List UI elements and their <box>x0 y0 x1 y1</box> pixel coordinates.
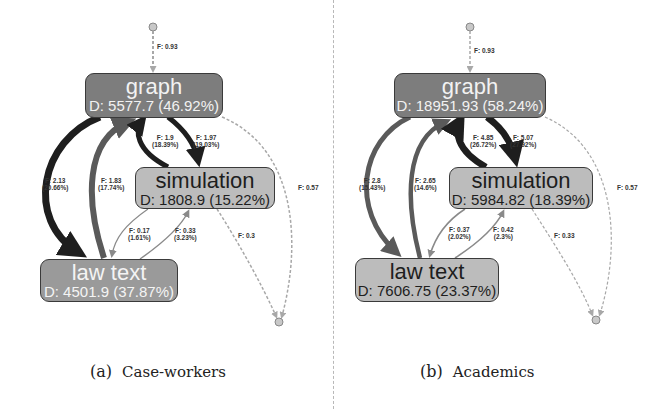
node-simulation: simulation D: 1808.9 (15.22%) <box>135 167 275 209</box>
edge-percentage: (2.02%) <box>448 233 471 240</box>
edge-label-graph-to-sim: F: 5.07(27.92%) <box>510 134 536 148</box>
edge-percentage: (2.3%) <box>494 233 513 240</box>
end-node-icon <box>592 316 600 324</box>
edge-frequency: F: 1.97 <box>196 134 217 141</box>
panel-divider <box>333 0 334 409</box>
edge-frequency: F: 0.33 <box>554 232 575 239</box>
node-law-text: law text D: 4501.9 (37.87%) <box>40 259 178 302</box>
node-label: law text <box>356 261 498 283</box>
edge-frequency: F: 1.83 <box>101 177 122 184</box>
edge-sim-to-end <box>532 209 592 314</box>
edge-label-sim-to-end: F: 0.33 <box>554 232 575 239</box>
node-label: graph <box>395 76 545 98</box>
edge-label-graph-to-law: F: 2.8(15.43%) <box>359 177 385 191</box>
edge-label-law-to-sim: F: 0.33(3.23%) <box>174 227 197 241</box>
edge-label-sim-to-graph: F: 1.9(18.39%) <box>152 134 178 148</box>
edge-graph-to-end <box>222 117 292 316</box>
node-duration: D: 5577.7 (46.92%) <box>86 98 222 114</box>
edge-frequency: F: 0.17 <box>129 227 150 234</box>
edge-frequency: F: 0.33 <box>175 227 196 234</box>
edge-frequency: F: 5.07 <box>513 134 534 141</box>
edge-percentage: (17.74%) <box>98 184 124 191</box>
edge-label-graph-to-end: F: 0.57 <box>298 184 319 191</box>
edge-frequency: F: 0.37 <box>449 226 470 233</box>
node-label: simulation <box>450 170 592 192</box>
node-duration: D: 1808.9 (15.22%) <box>136 192 274 208</box>
edge-percentage: (14.6%) <box>414 184 437 191</box>
edge-percentage: (27.92%) <box>510 141 536 148</box>
edge-label-sim-to-end: F: 0.3 <box>238 232 255 239</box>
edge-percentage: (26.72%) <box>470 141 496 148</box>
caption-text: Case-workers <box>122 363 226 381</box>
node-simulation: simulation D: 5984.82 (18.39%) <box>449 167 593 209</box>
edge-percentage: (1.61%) <box>128 234 151 241</box>
edge-percentage: (18.39%) <box>152 141 178 148</box>
edge-label-law-to-sim: F: 0.42(2.3%) <box>493 226 514 240</box>
caption-tag: (b) <box>420 362 443 381</box>
node-duration: D: 7606.75 (23.37%) <box>356 283 498 299</box>
node-law-text: law text D: 7606.75 (23.37%) <box>355 258 499 302</box>
edge-graph-to-end <box>545 117 611 314</box>
end-node-icon <box>275 318 283 326</box>
node-graph: graph D: 5577.7 (46.92%) <box>85 73 223 118</box>
edge-frequency: F: 2.8 <box>364 177 381 184</box>
edge-sim-to-end <box>217 209 276 316</box>
edge-label-law-to-graph: F: 2.65(14.6%) <box>414 177 437 191</box>
edge-frequency: F: 2.65 <box>415 177 436 184</box>
edge-percentage: (20.66%) <box>42 184 68 191</box>
edge-label-start-to-graph: F: 0.93 <box>474 47 495 54</box>
edge-label-start-to-graph: F: 0.93 <box>157 43 178 50</box>
node-graph: graph D: 18951.93 (58.24%) <box>394 73 546 118</box>
edge-label-law-to-graph: F: 1.83(17.74%) <box>98 177 124 191</box>
node-duration: D: 18951.93 (58.24%) <box>395 98 545 114</box>
caption-academics: (b)Academics <box>420 362 535 381</box>
edge-frequency: F: 0.42 <box>493 226 514 233</box>
edge-frequency: F: 2.13 <box>45 177 66 184</box>
node-label: simulation <box>136 170 274 192</box>
edge-label-sim-to-law: F: 0.37(2.02%) <box>448 226 471 240</box>
edge-frequency: F: 0.93 <box>157 43 178 50</box>
start-node-icon <box>466 23 474 31</box>
edge-label-sim-to-law: F: 0.17(1.61%) <box>128 227 151 241</box>
edge-frequency: F: 0.93 <box>474 47 495 54</box>
edge-frequency: F: 0.3 <box>238 232 255 239</box>
edge-label-graph-to-end: F: 0.57 <box>617 184 638 191</box>
caption-tag: (a) <box>90 362 112 381</box>
edge-frequency: F: 1.9 <box>157 134 174 141</box>
start-node-icon <box>149 23 157 31</box>
edge-frequency: F: 4.85 <box>473 134 494 141</box>
edge-label-sim-to-graph: F: 4.85(26.72%) <box>470 134 496 148</box>
edge-percentage: (3.23%) <box>174 234 197 241</box>
caption-case-workers: (a)Case-workers <box>90 362 226 381</box>
edge-percentage: (19.03%) <box>193 141 219 148</box>
edge-percentage: (15.43%) <box>359 184 385 191</box>
edge-label-graph-to-sim: F: 1.97(19.03%) <box>193 134 219 148</box>
edge-frequency: F: 0.57 <box>617 184 638 191</box>
node-duration: D: 5984.82 (18.39%) <box>450 192 592 208</box>
node-duration: D: 4501.9 (37.87%) <box>41 284 177 300</box>
edge-frequency: F: 0.57 <box>298 184 319 191</box>
node-label: graph <box>86 76 222 98</box>
edge-label-graph-to-law: F: 2.13(20.66%) <box>42 177 68 191</box>
caption-text: Academics <box>453 363 535 381</box>
node-label: law text <box>41 262 177 284</box>
